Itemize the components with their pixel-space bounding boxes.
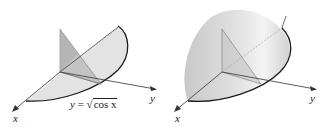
left-x-arrow-icon	[12, 105, 19, 112]
right-x-label: x	[175, 113, 180, 124]
right-back-axis	[282, 16, 286, 28]
right-y-label: y	[310, 93, 315, 104]
left-x-label: x	[13, 113, 18, 124]
diagram-canvas	[0, 0, 327, 129]
curve-equation-label: y = √cos x	[70, 98, 117, 110]
right-figure	[174, 10, 317, 112]
equation-lhs: y	[70, 98, 75, 110]
equation-equals: =	[78, 98, 84, 110]
right-x-arrow-icon	[174, 105, 181, 112]
left-y-label: y	[150, 93, 155, 104]
equation-radicand: cos x	[93, 98, 117, 110]
left-y-arrow-icon	[150, 86, 157, 91]
right-y-arrow-icon	[310, 86, 317, 91]
